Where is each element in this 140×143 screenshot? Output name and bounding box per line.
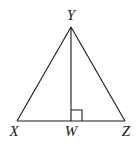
label-w: W <box>65 123 79 139</box>
label-y: Y <box>67 7 77 23</box>
side-yz <box>71 27 125 121</box>
side-xy <box>17 27 71 121</box>
label-z: Z <box>122 123 131 139</box>
right-angle-marker <box>71 110 82 121</box>
triangle-diagram: Y X W Z <box>0 0 140 143</box>
label-x: X <box>8 123 19 139</box>
